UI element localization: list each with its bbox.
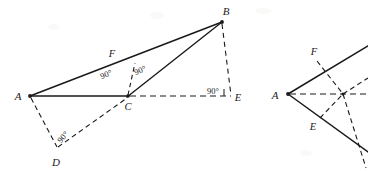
vertex-dot-A	[28, 94, 32, 98]
left-geometry-figure: A B C D E F 90° 90° 90° 90°	[14, 5, 242, 168]
angle-label-BFC: 90°	[133, 63, 148, 77]
point-label-F: F	[108, 48, 116, 59]
point-label-A-right: A	[271, 89, 279, 101]
segment-AD	[31, 98, 57, 147]
diagram-canvas: A B C D E F 90° 90° 90° 90°	[0, 0, 368, 171]
segment-X-lower	[343, 94, 366, 168]
right-geometry-figure: A F E	[271, 46, 368, 168]
angle-label-E: 90°	[207, 86, 219, 96]
segment-EX	[320, 94, 343, 118]
vertex-dot-C	[126, 94, 129, 97]
point-label-E: E	[234, 92, 242, 103]
point-label-C: C	[124, 101, 132, 112]
point-label-F-right: F	[310, 46, 318, 57]
segment-AB	[30, 22, 222, 96]
angle-label-D: 90°	[55, 129, 70, 145]
segment-FX	[317, 61, 343, 94]
point-label-B: B	[223, 5, 230, 17]
vertex-dot-A-right	[286, 92, 290, 96]
point-label-D: D	[51, 156, 60, 168]
point-label-A: A	[14, 90, 22, 102]
segment-DC	[58, 98, 127, 147]
segment-BE	[222, 24, 231, 95]
vertex-dot-X-right	[341, 92, 344, 95]
point-label-E-right: E	[309, 121, 317, 132]
segment-A-up-right	[288, 46, 368, 94]
segment-X-upper	[343, 78, 368, 94]
geometry-figure-svg: A B C D E F 90° 90° 90° 90°	[0, 0, 368, 171]
segment-A-down-right	[288, 94, 368, 152]
vertex-dot-B	[220, 20, 224, 24]
